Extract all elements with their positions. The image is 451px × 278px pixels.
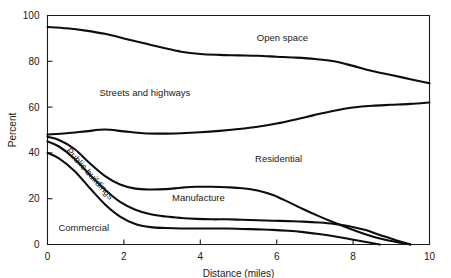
- y-axis-tick-label: 20: [28, 193, 40, 204]
- band-label-open-space: Open space: [257, 32, 308, 43]
- x-axis-tick-label: 6: [274, 251, 280, 262]
- land-use-area-chart: 0204060801000246810Distance (miles)Perce…: [0, 0, 451, 278]
- y-axis-tick-label: 60: [28, 102, 40, 113]
- y-axis-tick-label: 100: [23, 10, 40, 21]
- band-label-streets-and-highways: Streets and highways: [99, 87, 190, 98]
- x-axis-tick-label: 8: [350, 251, 356, 262]
- boundary-curve-streets-and-highways-lower-boundary: [48, 103, 430, 135]
- y-axis-tick-label: 80: [28, 56, 40, 67]
- x-axis-tick-label: 2: [121, 251, 127, 262]
- x-axis-tick-label: 4: [198, 251, 204, 262]
- y-axis-tick-label: 0: [34, 239, 40, 250]
- band-label-public-buildings: Public buildings: [64, 145, 117, 202]
- boundary-curve-open-space-lower-boundary: [48, 27, 430, 83]
- band-label-manufacture: Manufacture: [172, 192, 225, 203]
- chart-canvas: 0204060801000246810Distance (miles)Perce…: [0, 0, 451, 278]
- y-axis-tick-label: 40: [28, 147, 40, 158]
- x-axis-tick-label: 0: [45, 251, 51, 262]
- x-axis-title: Distance (miles): [203, 268, 275, 278]
- x-axis-tick-label: 10: [424, 251, 436, 262]
- y-axis-title: Percent: [7, 113, 18, 148]
- band-label-commercial: Commercial: [58, 222, 109, 233]
- band-label-residential: Residential: [255, 153, 302, 164]
